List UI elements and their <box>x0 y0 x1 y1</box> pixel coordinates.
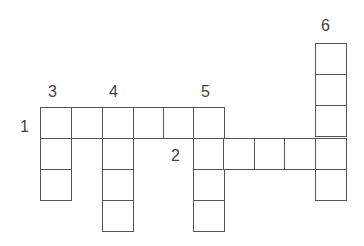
crossword-cell[interactable] <box>102 200 134 232</box>
crossword-cell[interactable] <box>193 169 225 201</box>
crossword-cell[interactable] <box>193 138 225 170</box>
crossword-cell[interactable] <box>315 105 347 137</box>
crossword-cell[interactable] <box>102 107 134 139</box>
clue-number-label: 3 <box>48 84 57 100</box>
crossword-cell[interactable] <box>284 138 316 170</box>
crossword-cell[interactable] <box>193 200 225 232</box>
crossword-cell[interactable] <box>71 107 103 139</box>
crossword-cell[interactable] <box>315 138 347 170</box>
clue-number-label: 6 <box>321 18 330 34</box>
crossword-cell[interactable] <box>40 138 72 170</box>
crossword-cell[interactable] <box>133 107 165 139</box>
crossword-cell[interactable] <box>102 169 134 201</box>
crossword-cell[interactable] <box>193 107 225 139</box>
crossword-cell[interactable] <box>102 138 134 170</box>
crossword-cell[interactable] <box>40 107 72 139</box>
clue-number-label: 4 <box>109 84 118 100</box>
crossword-cell[interactable] <box>315 74 347 106</box>
crossword-cell[interactable] <box>223 138 255 170</box>
crossword-cell[interactable] <box>40 169 72 201</box>
clue-number-label: 1 <box>20 119 29 135</box>
crossword-cell[interactable] <box>254 138 286 170</box>
crossword-cell[interactable] <box>315 169 347 201</box>
crossword-cell[interactable] <box>315 43 347 75</box>
crossword-cell[interactable] <box>163 107 195 139</box>
clue-number-label: 5 <box>201 84 210 100</box>
clue-number-label: 2 <box>171 148 180 164</box>
